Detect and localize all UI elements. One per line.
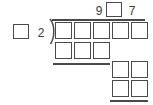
divisor-digit-2: 2 — [36, 27, 46, 39]
division-vinculum — [52, 19, 145, 21]
partial-product-1-blank-2[interactable] — [74, 42, 91, 59]
quotient-digit-1: 9 — [94, 5, 104, 17]
dividend-blank-5[interactable] — [131, 22, 148, 39]
dividend-blank-3[interactable] — [93, 22, 110, 39]
quotient-blank-2[interactable] — [106, 2, 122, 17]
subtraction-rule-1 — [53, 63, 110, 65]
dividend-blank-2[interactable] — [74, 22, 91, 39]
dividend-blank-4[interactable] — [112, 22, 129, 39]
partial-product-2-blank-1[interactable] — [112, 61, 129, 78]
remainder-blank-1[interactable] — [112, 80, 129, 97]
long-division-worksheet: 9 7 2 — [0, 0, 153, 105]
divisor-blank-1[interactable] — [13, 24, 29, 39]
partial-product-1-blank-3[interactable] — [93, 42, 110, 59]
partial-product-2-blank-2[interactable] — [131, 61, 148, 78]
partial-product-1-blank-1[interactable] — [55, 42, 72, 59]
remainder-blank-2[interactable] — [131, 80, 148, 97]
subtraction-rule-2 — [110, 100, 148, 102]
dividend-blank-1[interactable] — [55, 22, 72, 39]
quotient-digit-3: 7 — [127, 5, 137, 17]
